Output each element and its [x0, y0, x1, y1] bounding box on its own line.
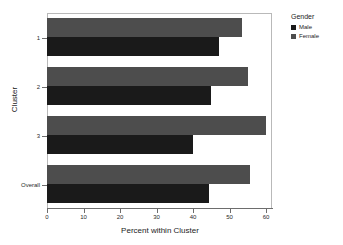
legend-title: Gender: [291, 13, 341, 21]
y-tick-label-overall: Overall: [21, 182, 40, 189]
legend-swatch-female-icon: [291, 34, 296, 39]
x-axis-line: [47, 208, 273, 209]
legend: Gender Male Female: [291, 13, 341, 42]
x-axis-label: Percent within Cluster: [47, 226, 273, 235]
y-tick-label-1: 1: [37, 35, 40, 42]
legend-item-male[interactable]: Male: [291, 24, 341, 31]
legend-label-male: Male: [299, 24, 312, 31]
bar-3-female: [47, 116, 266, 135]
bar-overall-female: [47, 165, 250, 184]
x-tick-label-20: 20: [110, 213, 130, 221]
legend-swatch-male-icon: [291, 25, 296, 30]
y-tick-overall: [42, 185, 47, 186]
x-tick-label-40: 40: [183, 213, 203, 221]
x-tick-label-60: 60: [256, 213, 276, 221]
x-tick-label-10: 10: [74, 213, 94, 221]
bar-overall-male: [47, 184, 209, 203]
legend-label-female: Female: [299, 33, 319, 40]
y-axis-label: Cluster: [10, 70, 19, 130]
x-tick-label-50: 50: [220, 213, 240, 221]
legend-item-female[interactable]: Female: [291, 33, 341, 40]
bar-2-male: [47, 86, 211, 105]
y-tick-3: [42, 136, 47, 137]
bar-1-male: [47, 37, 219, 56]
y-tick-2: [42, 87, 47, 88]
bar-3-male: [47, 135, 193, 154]
chart-root: 0102030405060 Percent within Cluster 123…: [0, 0, 343, 245]
bar-2-female: [47, 67, 248, 86]
x-tick-label-0: 0: [37, 213, 57, 221]
chart-title: [0, 0, 290, 1]
bar-1-female: [47, 18, 242, 37]
y-tick-label-2: 2: [37, 84, 40, 91]
bars-layer: [47, 13, 272, 209]
x-tick-label-30: 30: [147, 213, 167, 221]
y-tick-label-3: 3: [37, 133, 40, 140]
y-tick-1: [42, 38, 47, 39]
